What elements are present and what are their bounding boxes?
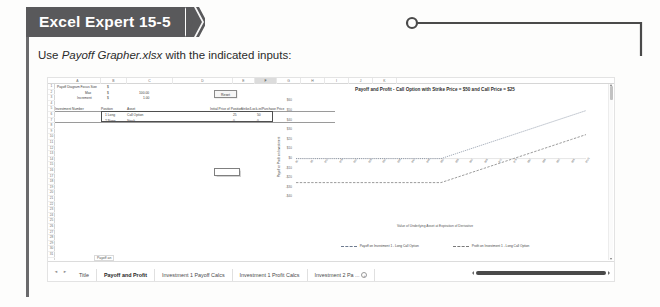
add-sheet-icon[interactable]: + <box>361 272 367 278</box>
sheet-tab-bar: ◄ ► TitlePayoff and ProfitInvestment 1 P… <box>48 261 615 281</box>
horizontal-scrollbar[interactable] <box>472 270 610 276</box>
sheet-nav-prev-icon[interactable]: ◄ <box>54 269 58 274</box>
selected-cell[interactable] <box>214 168 240 176</box>
page-root: Excel Expert 15-5 Use Payoff Grapher.xls… <box>0 0 660 307</box>
reset-button[interactable]: Reset <box>214 90 237 98</box>
sheet-nav-buttons[interactable]: ◄ ► <box>48 269 72 274</box>
instruction-text: Use Payoff Grapher.xlsx with the indicat… <box>38 49 291 61</box>
instruction-prefix: Use <box>38 49 62 61</box>
row-header-column: 1234567891011121314151617181920212223242… <box>48 84 55 260</box>
banner-chevron-icon <box>185 7 205 37</box>
cell-B33[interactable]: $ <box>107 96 109 102</box>
input-range-outline <box>101 111 273 122</box>
banner-title: Excel Expert 15-5 <box>26 7 185 37</box>
sheet-nav-next-icon[interactable]: ► <box>63 269 67 274</box>
sheet-tab-investment-1-profit-calcs[interactable]: Investment 1 Profit Calcs <box>233 269 308 282</box>
sheet-tab-title[interactable]: Title <box>72 269 97 282</box>
chart-legend: Payoff on Investment 1 - Long Call Optio… <box>270 244 600 248</box>
legend-swatch-payoff-icon <box>341 246 357 247</box>
horizontal-scroll-thumb[interactable] <box>476 271 606 275</box>
excel-window: ABCDEFGHIJK 1234567891011121314151617181… <box>47 77 615 282</box>
instruction-filename: Payoff Grapher.xlsx <box>62 49 163 61</box>
chart-plot-area <box>270 85 600 250</box>
row-header-31[interactable]: 31 <box>48 252 55 258</box>
sheet-tab-payoff-and-profit[interactable]: Payoff and Profit <box>97 269 155 282</box>
chart-series-1 <box>296 111 586 159</box>
legend-label-payoff: Payoff on Investment 1 - Long Call Optio… <box>360 244 419 248</box>
cell-B3[interactable]: Increment <box>77 96 92 102</box>
embedded-chart[interactable]: Payoff and Profit - Call Option with Str… <box>270 85 600 250</box>
sheet-tab-investment-2-pa[interactable]: Investment 2 Pa ...+ <box>308 269 376 282</box>
scroll-down-arrow-icon[interactable] <box>610 258 612 260</box>
sheet-tab-tooltip: Payoff an <box>94 255 114 261</box>
sheet-tab-investment-1-payoff-calcs[interactable]: Investment 1 Payoff Calcs <box>155 269 233 282</box>
legend-item-payoff: Payoff on Investment 1 - Long Call Optio… <box>341 244 419 248</box>
instruction-suffix: with the indicated inputs: <box>162 49 291 61</box>
vertical-scroll-thumb[interactable] <box>610 86 613 100</box>
legend-item-profit: Profit on Investment 1 - Long Call Optio… <box>453 244 530 248</box>
cell-C3[interactable]: 1.00 <box>143 96 149 102</box>
legend-swatch-profit-icon <box>453 246 469 247</box>
hscroll-right-arrow-icon[interactable] <box>608 271 610 275</box>
left-vertical-rule <box>26 37 29 297</box>
legend-label-profit: Profit on Investment 1 - Long Call Optio… <box>472 244 530 248</box>
exercise-banner: Excel Expert 15-5 <box>26 7 205 37</box>
vertical-scrollbar[interactable] <box>608 84 613 260</box>
hscroll-left-arrow-icon[interactable] <box>472 271 474 275</box>
callout-pointer <box>404 6 656 56</box>
sheet-tabs[interactable]: TitlePayoff and ProfitInvestment 1 Payof… <box>72 262 376 282</box>
